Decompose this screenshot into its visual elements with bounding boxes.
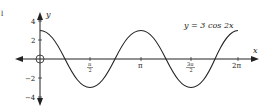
x-tick-2pi: 2π (232, 62, 241, 70)
x-axis-right-arrow-icon (251, 56, 259, 62)
y-tick-2: 2 (31, 37, 35, 45)
panel-label: l (1, 10, 4, 18)
x-axis-left-arrow-icon (15, 56, 23, 62)
cosine-graph: l x y 4 2 −2 −4 (0, 0, 263, 111)
y-ticks: 4 2 −2 −4 (25, 18, 42, 102)
y-tick-neg2: −2 (25, 75, 35, 83)
y-axis-up-arrow-icon (37, 12, 43, 20)
x-axis: x (15, 46, 259, 62)
x-tick-pi-over-2-den: 2 (89, 67, 92, 73)
y-axis-down-arrow-icon (37, 98, 43, 106)
y-tick-4: 4 (31, 18, 36, 26)
x-tick-3pi-over-2-den: 2 (190, 67, 193, 73)
x-tick-pi: π (138, 62, 143, 70)
y-tick-neg4: −4 (25, 94, 36, 102)
curve-annotation: y = 3 cos 2x (183, 21, 234, 30)
x-axis-label: x (253, 46, 258, 55)
y-axis-label: y (45, 10, 51, 19)
